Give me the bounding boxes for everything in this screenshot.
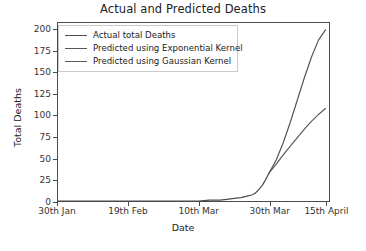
legend-label: Predicted using Exponential Kernel (93, 44, 243, 53)
legend-item: Predicted using Exponential Kernel (63, 42, 233, 55)
legend-item: Predicted using Gaussian Kernel (63, 55, 233, 68)
x-tick-label: 10th Mar (179, 206, 220, 216)
x-tick-mark (57, 202, 58, 206)
legend-line-swatch (65, 61, 87, 62)
x-tick-mark (326, 202, 327, 206)
y-axis-title: Total Deaths (12, 73, 23, 163)
legend-line-swatch (65, 35, 87, 36)
series-line-0 (58, 173, 269, 201)
x-tick-label: 30th Jan (38, 206, 75, 216)
legend-line-swatch (65, 48, 87, 49)
x-tick-mark (199, 202, 200, 206)
x-axis-title: Date (0, 222, 366, 233)
legend-label: Predicted using Gaussian Kernel (93, 57, 231, 66)
x-tick-mark (270, 202, 271, 206)
series-line-2 (269, 109, 325, 173)
x-tick-mark (128, 202, 129, 206)
x-tick-label: 19th Feb (108, 206, 147, 216)
x-tick-label: 15th April (304, 206, 348, 216)
series-line-1 (269, 30, 325, 173)
legend-label: Actual total Deaths (93, 31, 176, 40)
chart-legend: Actual total DeathsPredicted using Expon… (58, 25, 238, 72)
x-tick-label: 30th Mar (249, 206, 290, 216)
chart-figure: Actual and Predicted Deaths 025507510012… (0, 0, 366, 251)
legend-item: Actual total Deaths (63, 29, 233, 42)
